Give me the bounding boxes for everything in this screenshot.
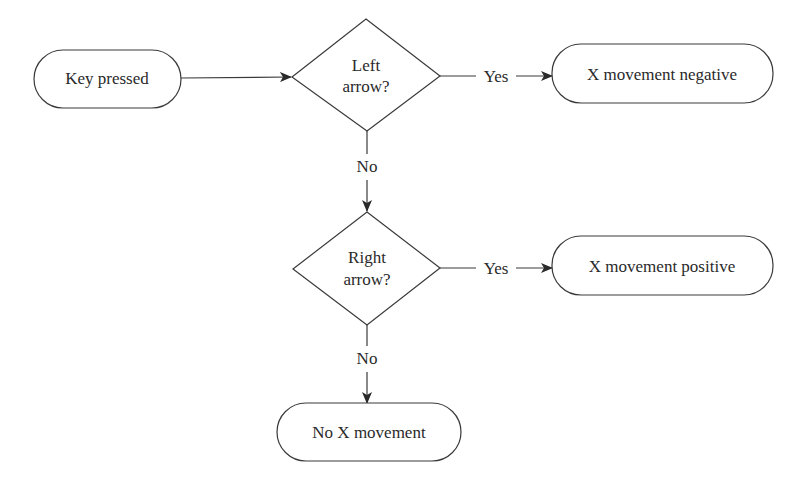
node-x-movement-negative-label: X movement negative — [587, 65, 737, 84]
node-key-pressed-label: Key pressed — [65, 69, 149, 88]
edge-right-no: No — [357, 325, 378, 403]
edge-label-right-no: No — [357, 349, 378, 368]
node-x-movement-negative: X movement negative — [552, 44, 773, 103]
node-no-x-movement-label: No X movement — [312, 423, 426, 442]
node-no-x-movement: No X movement — [277, 403, 461, 461]
node-x-movement-positive: X movement positive — [552, 236, 773, 295]
node-right-arrow-line2: arrow? — [343, 270, 390, 289]
edge-label-left-no: No — [357, 157, 378, 176]
node-x-movement-positive-label: X movement positive — [589, 257, 735, 276]
node-right-arrow-decision: Right arrow? — [293, 212, 440, 325]
node-key-pressed: Key pressed — [34, 50, 181, 108]
edge-right-yes: Yes — [440, 259, 552, 278]
node-left-arrow-line1: Left — [352, 56, 381, 75]
edge-left-no: No — [357, 131, 378, 211]
edge-start-to-left-decision — [181, 77, 291, 78]
edge-label-left-yes: Yes — [484, 67, 509, 86]
edge-left-yes: Yes — [440, 67, 552, 86]
edge-label-right-yes: Yes — [484, 259, 509, 278]
node-right-arrow-line1: Right — [348, 248, 386, 267]
flowchart-canvas: Yes No Yes No Key pressed Left arrow? X … — [0, 0, 802, 486]
node-left-arrow-decision: Left arrow? — [292, 19, 440, 131]
node-left-arrow-line2: arrow? — [342, 77, 389, 96]
